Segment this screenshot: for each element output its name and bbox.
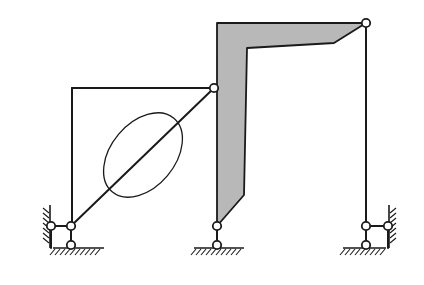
right-top-joint-icon	[362, 19, 370, 27]
right-wall-slider-joint-icon	[384, 222, 392, 230]
l-shaped-rigid-body	[217, 23, 366, 226]
diagram-canvas	[0, 0, 424, 285]
linkage-diagram	[0, 0, 424, 285]
left-ground-joint-icon	[67, 241, 75, 249]
diagonal-link	[71, 88, 214, 226]
left-main-joint-icon	[67, 222, 75, 230]
right-ground-joint-icon	[362, 241, 370, 249]
right-main-joint-icon	[362, 222, 370, 230]
left-ground	[50, 248, 104, 255]
left-wall-slider-joint-icon	[47, 222, 55, 230]
diagonal-top-joint-icon	[210, 84, 218, 92]
middle-ground-joint-icon	[213, 241, 221, 249]
middle-upper-joint-icon	[213, 222, 221, 230]
